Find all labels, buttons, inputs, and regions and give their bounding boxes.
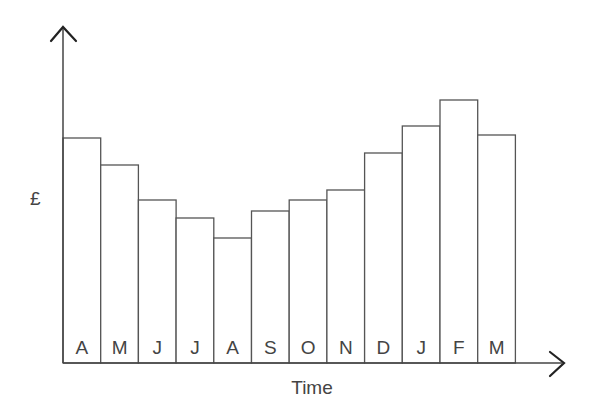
category-label: N <box>339 337 353 358</box>
x-axis-arrow-icon <box>550 352 564 376</box>
category-label: D <box>377 337 391 358</box>
bar-10 <box>440 100 478 363</box>
bar-1 <box>101 165 139 363</box>
category-label: S <box>264 337 277 358</box>
category-label: A <box>226 337 239 358</box>
category-label: A <box>76 337 89 358</box>
x-axis-label: Time <box>291 377 333 398</box>
bar-chart: AMJJASONDJFM £ Time <box>0 0 597 420</box>
bar-0 <box>63 138 101 363</box>
bar-8 <box>365 153 403 363</box>
bar-9 <box>402 126 440 363</box>
category-label: O <box>301 337 316 358</box>
y-axis-label: £ <box>30 188 41 209</box>
bars-group <box>63 100 515 363</box>
category-label: M <box>112 337 128 358</box>
category-label: F <box>453 337 465 358</box>
category-label: M <box>489 337 505 358</box>
category-label: J <box>153 337 163 358</box>
category-label: J <box>190 337 200 358</box>
category-label: J <box>416 337 426 358</box>
bar-11 <box>478 135 516 363</box>
